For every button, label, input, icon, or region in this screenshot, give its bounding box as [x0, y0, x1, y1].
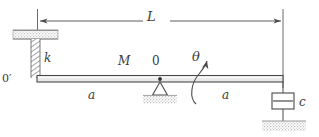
label-right-half-length: a — [222, 89, 229, 101]
ceiling-hatch-block — [13, 30, 58, 39]
pivot-ground-hatch — [143, 96, 177, 104]
label-left-half-length: a — [88, 89, 95, 101]
diagram-canvas — [0, 0, 319, 137]
label-spring-stiffness: k — [44, 52, 51, 64]
ground-hatch-block — [262, 121, 306, 131]
pivot-point-dot — [158, 77, 162, 81]
dashpot-damper-group — [272, 82, 294, 122]
label-left-end-point: 0′ — [2, 73, 12, 84]
mechanical-schematic-diagram: L k 0′ M 0 θ a a c — [0, 0, 319, 137]
label-damping-coefficient: c — [299, 96, 306, 108]
label-total-length: L — [147, 10, 156, 23]
label-rotation-angle: θ — [192, 50, 200, 63]
ceiling-support-group — [13, 30, 58, 39]
label-pivot-point: 0 — [152, 55, 160, 67]
spring-group — [31, 39, 40, 78]
label-beam-mass: M — [118, 55, 130, 67]
spring-coil-body — [31, 39, 40, 78]
pivot-triangle — [153, 82, 168, 95]
ground-support-group — [262, 121, 306, 131]
